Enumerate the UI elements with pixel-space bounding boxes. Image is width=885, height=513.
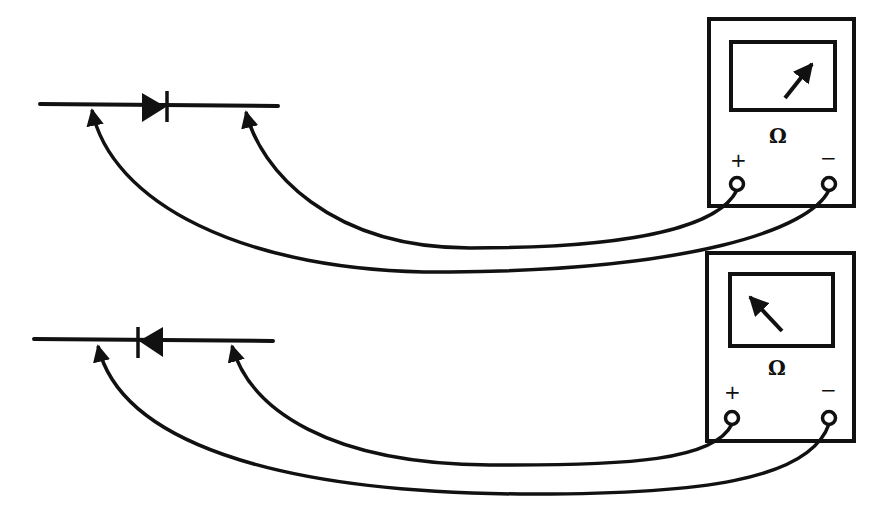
diode-ohmmeter-test-diagram [0, 0, 885, 513]
bottom-wire-plus-to-right-lead [232, 346, 732, 465]
top-setup [40, 19, 854, 272]
bottom-meter-unit-label: Ω [768, 356, 786, 380]
top-meter-needle-icon [785, 64, 812, 98]
top-meter-plus-label: + [730, 148, 747, 172]
top-meter-unit-label: Ω [769, 124, 787, 148]
bottom-setup [34, 253, 854, 494]
top-meter-minus-label: − [820, 146, 837, 170]
bottom-plus-terminal [726, 412, 739, 425]
top-ohmmeter [709, 19, 854, 206]
bottom-meter-needle-icon [750, 297, 782, 331]
bottom-wire-minus-to-left-lead [98, 346, 829, 494]
top-diode-symbol-icon [142, 91, 167, 122]
top-wire-plus-to-right-lead [246, 112, 737, 248]
bottom-meter-minus-label: − [820, 378, 837, 402]
top-plus-terminal [731, 178, 744, 191]
bottom-ohmmeter [707, 253, 854, 441]
bottom-meter-plus-label: + [724, 380, 741, 404]
top-minus-terminal [823, 178, 836, 191]
bottom-diode-symbol-icon [138, 327, 163, 358]
bottom-minus-terminal [823, 412, 836, 425]
